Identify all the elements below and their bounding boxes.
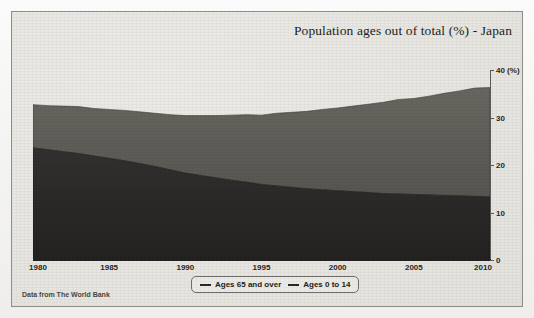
chart-legend: Ages 65 and overAges 0 to 14 (191, 276, 359, 293)
x-tick-label-1980: 1980 (29, 263, 47, 272)
x-tick-label-1995: 1995 (253, 263, 271, 272)
screenshot-root: Population ages out of total (%) - Japan (0, 0, 534, 318)
legend-line-swatch (288, 284, 299, 286)
source-note: Data from The World Bank (22, 291, 110, 298)
y-tick-mark-40 (490, 70, 494, 71)
legend-label: Ages 0 to 14 (303, 280, 350, 289)
y-tick-label-40: 40 (%) (496, 66, 520, 75)
y-tick-mark-10 (490, 213, 494, 214)
legend-line-swatch (200, 284, 211, 286)
x-tick-label-2010: 2010 (474, 263, 492, 272)
legend-label: Ages 65 and over (215, 280, 281, 289)
x-tick-label-2005: 2005 (405, 263, 423, 272)
chart-figure-frame: Population ages out of total (%) - Japan (11, 11, 523, 307)
y-tick-mark-0 (490, 260, 494, 261)
x-axis-line (33, 259, 491, 261)
y-tick-label-0: 0 (496, 256, 500, 265)
y-tick-mark-30 (490, 118, 494, 119)
x-tick-label-1985: 1985 (100, 263, 118, 272)
chart-title: Population ages out of total (%) - Japan (294, 23, 512, 39)
plot-area (33, 70, 490, 260)
y-tick-label-10: 10 (496, 208, 505, 217)
chart-canvas: Population ages out of total (%) - Japan (12, 12, 522, 306)
legend-entry-1[interactable]: Ages 65 and over (200, 280, 281, 289)
y-tick-mark-20 (490, 165, 494, 166)
y-tick-label-30: 30 (496, 113, 505, 122)
stacked-area-plot (33, 70, 490, 260)
x-tick-label-1990: 1990 (176, 263, 194, 272)
legend-entry-2[interactable]: Ages 0 to 14 (288, 280, 350, 289)
y-tick-label-20: 20 (496, 161, 505, 170)
x-tick-label-2000: 2000 (329, 263, 347, 272)
